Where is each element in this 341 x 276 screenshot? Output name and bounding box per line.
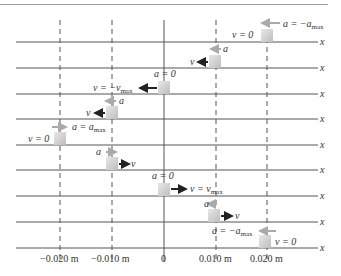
svg-text:−0.010 m: −0.010 m <box>91 253 130 264</box>
svg-text:x: x <box>319 62 325 73</box>
svg-text:v = vmax: v = vmax <box>190 183 223 196</box>
svg-text:a = 0: a = 0 <box>154 68 176 79</box>
svg-text:v = 0: v = 0 <box>275 236 296 247</box>
x-axis-labels: x x x x x x x x x <box>319 36 325 253</box>
shm-diagram: x x x x x x x x x a = −amax v = 0 a v a … <box>0 0 341 276</box>
svg-text:x: x <box>319 88 325 99</box>
svg-text:x: x <box>319 36 325 47</box>
svg-text:x: x <box>319 139 325 150</box>
svg-text:v: v <box>190 56 195 67</box>
svg-text:a = amax: a = amax <box>72 121 106 134</box>
svg-text:x: x <box>319 164 325 175</box>
svg-text:0: 0 <box>161 253 166 264</box>
svg-text:a: a <box>96 146 101 157</box>
svg-text:v = 0: v = 0 <box>232 29 253 40</box>
svg-text:a = −amax: a = −amax <box>283 18 324 31</box>
svg-text:v: v <box>131 158 136 169</box>
position-labels: −0.020 m −0.010 m 0 0.010 m 0.020 m <box>40 253 283 264</box>
svg-text:v = −vmax: v = −vmax <box>93 82 133 95</box>
svg-text:a: a <box>223 43 228 54</box>
svg-text:x: x <box>319 242 325 253</box>
svg-text:a: a <box>204 198 209 209</box>
svg-text:a: a <box>119 95 124 106</box>
svg-text:v = 0: v = 0 <box>28 133 49 144</box>
svg-text:0.020 m: 0.020 m <box>250 253 283 264</box>
svg-text:0.010 m: 0.010 m <box>199 253 232 264</box>
svg-text:−0.020 m: −0.020 m <box>40 253 79 264</box>
svg-text:v: v <box>86 107 91 118</box>
svg-text:a = 0: a = 0 <box>152 170 174 181</box>
svg-text:v: v <box>235 210 240 221</box>
svg-text:a = −amax: a = −amax <box>212 225 253 238</box>
svg-text:x: x <box>319 190 325 201</box>
svg-text:x: x <box>319 216 325 227</box>
svg-text:x: x <box>319 113 325 124</box>
